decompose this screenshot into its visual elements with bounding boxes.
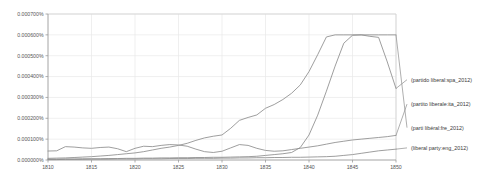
- x-axis-tick-label: 1835: [260, 164, 272, 170]
- series-label-3[interactable]: (liberal party:eng_2012): [411, 145, 468, 151]
- chart-background: [0, 0, 485, 183]
- y-axis-tick-label: 0.000100%: [17, 136, 44, 142]
- y-axis-tick-label: 0.000700%: [17, 11, 44, 17]
- y-axis-tick-label: 0.000000%: [17, 157, 44, 163]
- y-axis-tick-label: 0.000500%: [17, 53, 44, 59]
- y-axis-tick-label: 0.000300%: [17, 94, 44, 100]
- x-axis-tick-label: 1820: [129, 164, 141, 170]
- series-label-0[interactable]: (partido liberal:spa_2012): [411, 77, 472, 83]
- x-axis-tick-label: 1810: [42, 164, 54, 170]
- x-axis-tick-label: 1850: [390, 164, 402, 170]
- series-label-1[interactable]: (partito liberale:ita_2012): [411, 101, 471, 107]
- x-axis-tick-label: 1815: [86, 164, 98, 170]
- series-label-2[interactable]: (parti libéral:fre_2012): [411, 125, 464, 131]
- x-axis-tick-label: 1825: [173, 164, 185, 170]
- y-axis-tick-label: 0.000200%: [17, 115, 44, 121]
- ngram-viewer-chart: 0.000000%0.000100%0.000200%0.000300%0.00…: [0, 0, 485, 183]
- y-axis-tick-label: 0.000400%: [17, 73, 44, 79]
- y-axis-tick-label: 0.000600%: [17, 32, 44, 38]
- x-axis-tick-label: 1845: [347, 164, 359, 170]
- x-axis-tick-label: 1830: [216, 164, 228, 170]
- x-axis-tick-label: 1840: [303, 164, 315, 170]
